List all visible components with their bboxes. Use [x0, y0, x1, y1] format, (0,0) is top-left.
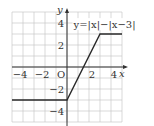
x-tick-label: −2	[35, 69, 50, 80]
y-axis-arrow-icon	[65, 8, 69, 13]
y-tick-label: −2	[49, 84, 64, 95]
y-tick-label: 2	[58, 40, 64, 51]
y-axis-label: y	[56, 4, 63, 15]
x-tick-label: −4	[13, 69, 28, 80]
x-tick-label: 2	[89, 69, 95, 80]
x-tick-label: 4	[111, 69, 117, 80]
chart: y=|x|−|x−3| x y O −4−22442−2−4	[0, 0, 154, 126]
x-axis-label: x	[119, 68, 125, 79]
function-label: y=|x|−|x−3|	[73, 19, 136, 31]
y-tick-label: −4	[49, 106, 64, 117]
origin-label: O	[57, 69, 65, 80]
y-tick-label: 4	[58, 18, 64, 29]
